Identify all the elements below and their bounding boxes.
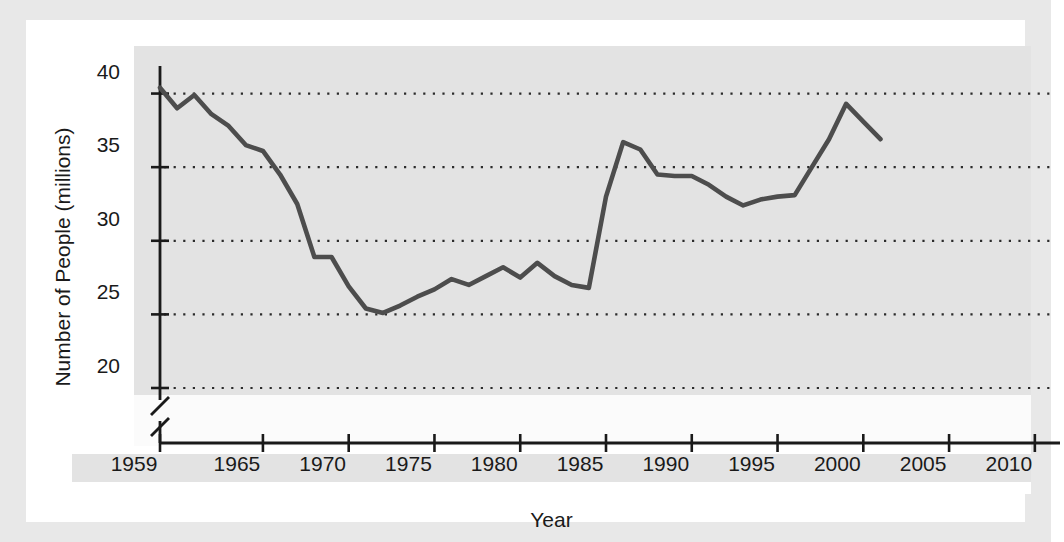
y-tick-label: 35	[64, 133, 120, 157]
x-axis-title: Year	[26, 508, 1064, 532]
under-ticklabels-gutter	[72, 482, 1031, 494]
y-tick-label: 20	[64, 354, 120, 378]
y-axis-label-gutter	[72, 46, 134, 446]
y-tick-label: 40	[64, 60, 120, 84]
x-tick-label: 2000	[814, 452, 861, 476]
figure-inner-panel: Number of People (millions) Year 2025303…	[26, 20, 1025, 522]
x-tick-label: 1975	[385, 452, 432, 476]
x-tick-label: 1985	[557, 452, 604, 476]
y-tick-label: 25	[64, 280, 120, 304]
x-tick-label: 1990	[642, 452, 689, 476]
x-tick-label: 1959	[111, 452, 158, 476]
axis-break-gutter	[134, 395, 1031, 446]
x-tick-label: 1995	[728, 452, 775, 476]
x-tick-label: 1965	[214, 452, 261, 476]
x-tick-label: 2010	[985, 452, 1032, 476]
x-tick-label: 1970	[299, 452, 346, 476]
x-tick-label: 1980	[471, 452, 518, 476]
x-tick-label: 2005	[900, 452, 947, 476]
y-tick-label: 30	[64, 207, 120, 231]
